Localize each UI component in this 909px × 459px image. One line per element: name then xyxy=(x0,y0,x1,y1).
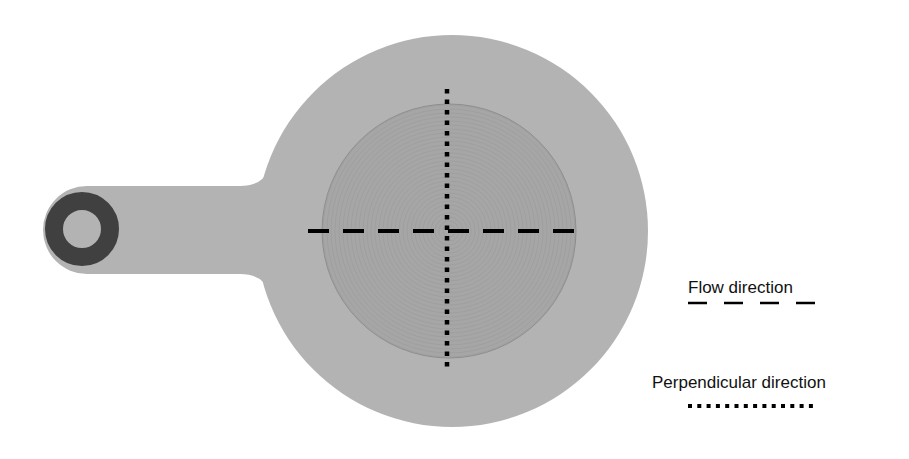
legend-perpendicular-label: Perpendicular direction xyxy=(652,374,826,391)
legend-flow-label: Flow direction xyxy=(688,279,793,296)
